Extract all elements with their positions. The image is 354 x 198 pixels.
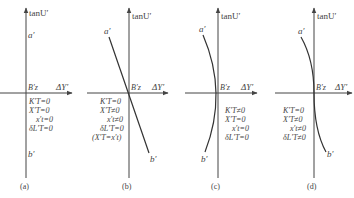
point-b: b′ [201, 154, 209, 164]
point-a: a′ [104, 26, 112, 36]
condition: K′T=0 [28, 97, 50, 106]
origin-label: B′z [28, 83, 39, 92]
caption: (d) [307, 182, 317, 191]
condition: x′t≠0 [289, 124, 306, 133]
condition: X′T=0 [224, 115, 245, 124]
origin-label: B′z [220, 83, 231, 92]
caption: (c) [211, 182, 220, 191]
origin-label: B′z [131, 83, 142, 92]
condition: x′t=0 [35, 115, 53, 124]
point-a: a′ [199, 24, 207, 34]
condition: K′T=0 [282, 106, 304, 115]
point-a: a′ [298, 26, 306, 36]
condition: (X′T=x′t) [92, 133, 122, 142]
x-axis-label: ΔY′ [240, 82, 254, 92]
condition: X′T=0 [28, 106, 49, 115]
condition: K′T≠0 [224, 106, 245, 115]
aberration-diagram: tanU′ ΔY′ a′ b′ B′z K′T=0 X′T=0 x′t=0 δL… [0, 0, 354, 198]
panel-d: tanU′ ΔY′ a′ b′ B′z K′T=0 X′T≠0 x′t≠0 δL… [275, 8, 352, 191]
y-axis-label: tanU′ [317, 11, 336, 21]
caption: (b) [122, 182, 132, 191]
condition: δL′T≠0 [283, 133, 306, 142]
y-axis-label: tanU′ [221, 11, 240, 21]
y-axis-label: tanU′ [29, 8, 48, 18]
x-axis-label: ΔY′ [55, 82, 69, 92]
caption: (a) [20, 182, 29, 191]
condition: x′t≠0 [106, 115, 123, 124]
panel-c: tanU′ ΔY′ a′ b′ B′z K′T≠0 X′T=0 x′t=0 δL… [185, 8, 257, 191]
y-axis-label: tanU′ [132, 11, 151, 21]
origin-label: B′z [316, 83, 327, 92]
condition: X′T≠0 [99, 106, 119, 115]
condition: x′t=0 [231, 124, 249, 133]
x-axis-label: ΔY′ [334, 82, 348, 92]
point-b: b′ [150, 154, 158, 164]
condition: δL′T=0 [100, 124, 124, 133]
x-axis-label: ΔY′ [151, 82, 165, 92]
point-a: a′ [28, 30, 36, 40]
condition: K′T=0 [99, 97, 121, 106]
condition: δL′T=0 [225, 133, 249, 142]
panel-b: tanU′ ΔY′ a′ b′ B′z K′T=0 X′T≠0 x′t≠0 δL… [87, 8, 168, 191]
panel-a: tanU′ ΔY′ a′ b′ B′z K′T=0 X′T=0 x′t=0 δL… [0, 8, 72, 191]
condition: δL′T=0 [29, 124, 53, 133]
point-b: b′ [327, 149, 335, 159]
condition: X′T≠0 [282, 115, 302, 124]
point-b: b′ [28, 149, 36, 159]
